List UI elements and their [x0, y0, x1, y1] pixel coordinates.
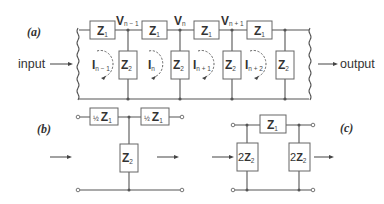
series-impedance-z1: Z1	[142, 21, 167, 39]
panel-a: (a) input output Z1	[18, 14, 375, 101]
shunt-impedance-z2: Z2	[223, 51, 241, 79]
loop-current-icon: In	[148, 51, 163, 80]
panel-b-t-section: (b) ½Z1 ½Z1 Z2	[37, 108, 184, 192]
ladder-network-diagram: (a) input output Z1	[0, 0, 384, 204]
half-series-impedance-right: ½Z1	[141, 108, 169, 125]
input-arrow-icon	[50, 155, 72, 159]
shunt-impedance-z2: Z2	[276, 51, 294, 79]
node-voltage-label: Vn	[174, 14, 186, 28]
output-arrow-icon	[318, 62, 338, 66]
double-shunt-impedance-right: 2Z2	[289, 143, 310, 171]
terminal	[76, 115, 80, 119]
svg-text:In + 2: In + 2	[245, 58, 263, 72]
panel-a-label: (a)	[27, 25, 41, 39]
series-impedance-z1: Z1	[194, 21, 219, 39]
input-arrow-icon	[212, 155, 234, 159]
right-wavy-boundary	[309, 28, 311, 100]
panel-c-label: (c)	[340, 121, 353, 135]
half-series-impedance-left: ½Z1	[90, 108, 118, 125]
output-label: output	[340, 57, 375, 71]
panel-c-pi-section: (c) Z1 2Z2 2Z2	[212, 115, 353, 192]
terminal	[231, 188, 235, 192]
series-impedance-z1: Z1	[247, 21, 272, 39]
shunt-impedance-z2: Z2	[120, 144, 138, 172]
input-label: input	[18, 57, 46, 71]
terminal	[76, 188, 80, 192]
svg-text:In + 1: In + 1	[193, 58, 211, 72]
panel-b-label: (b)	[37, 122, 51, 136]
series-impedance-z1: Z1	[260, 115, 286, 133]
terminal	[311, 188, 315, 192]
terminal	[180, 188, 184, 192]
left-wavy-boundary	[77, 28, 79, 100]
loop-current-icon: In − 1	[92, 50, 113, 80]
terminal	[180, 115, 184, 119]
input-arrow-icon	[50, 62, 73, 66]
terminal	[311, 123, 315, 127]
series-impedance-z1: Z1	[90, 21, 115, 39]
shunt-impedance-z2: Z2	[119, 51, 137, 79]
node-voltage-label: Vn + 1	[221, 14, 244, 28]
svg-text:In: In	[148, 58, 155, 72]
terminal	[231, 123, 235, 127]
node-voltage-label: Vn − 1	[116, 14, 139, 28]
loop-current-icon: In + 2	[245, 50, 266, 80]
output-arrow-icon	[157, 155, 179, 159]
loop-current-icon: In + 1	[193, 50, 214, 80]
shunt-impedance-z2: Z2	[171, 51, 189, 79]
double-shunt-impedance-left: 2Z2	[237, 143, 258, 171]
output-arrow-icon	[314, 155, 334, 159]
svg-text:In − 1: In − 1	[92, 58, 110, 72]
